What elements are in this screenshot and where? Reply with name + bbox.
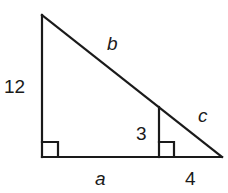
triangle-diagram: 12 b c 3 a 4 — [0, 0, 228, 193]
label-inner-height: 3 — [136, 123, 147, 144]
right-angle-marker-inner — [159, 142, 174, 157]
right-angle-marker-left — [42, 142, 58, 157]
label-c: c — [198, 105, 208, 126]
label-base-right: 4 — [185, 168, 196, 189]
label-left-side: 12 — [4, 76, 25, 97]
hypotenuse — [42, 15, 222, 157]
label-a: a — [95, 168, 106, 189]
label-b: b — [107, 33, 118, 54]
